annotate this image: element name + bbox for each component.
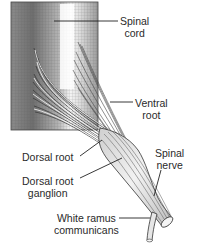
label-dorsal-root: Dorsal root [22, 151, 73, 163]
label-dorsal-root-ganglion: Dorsal root ganglion [22, 175, 73, 199]
spinal-cord-diagram [0, 0, 198, 247]
leader-dorsal-root [80, 140, 102, 156]
label-spinal-nerve: Spinal nerve [155, 147, 184, 171]
label-white-ramus: White ramus communicans [54, 212, 119, 236]
white-ramus-shape [147, 212, 157, 242]
label-spinal-cord: Spinal cord [120, 15, 149, 39]
leader-spinal-nerve [154, 170, 161, 196]
label-ventral-root: Ventral root [135, 97, 168, 121]
